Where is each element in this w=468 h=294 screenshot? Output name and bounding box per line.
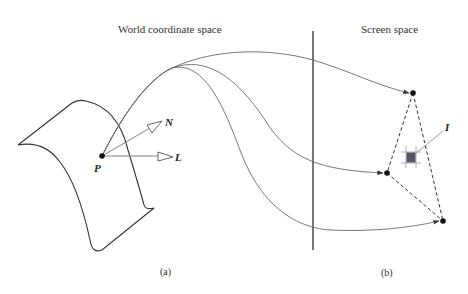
caption-a: (a) — [160, 266, 171, 278]
pixel-square-icon — [407, 153, 416, 163]
vertex-top-dot — [410, 90, 416, 96]
projection-curve-top — [102, 52, 409, 156]
normal-vector-label: N — [164, 116, 174, 128]
pixel-leader-line — [414, 131, 443, 155]
point-p-label: P — [94, 162, 101, 174]
caption-b: (b) — [381, 267, 393, 279]
projection-curves — [102, 52, 439, 231]
world-space-title: World coordinate space — [118, 23, 222, 35]
pixel-i — [401, 131, 443, 168]
surface-patch — [18, 100, 154, 251]
vertex-bottom-dot — [440, 218, 446, 224]
light-arrowhead-icon — [158, 152, 173, 161]
projection-curve-bottom — [102, 67, 439, 230]
point-p-dot — [99, 153, 105, 159]
light-vector-label: L — [174, 151, 182, 163]
light-vector — [102, 152, 173, 161]
normal-arrowhead-icon — [147, 121, 162, 133]
screen-space-title: Screen space — [361, 23, 418, 35]
rendering-diagram: World coordinate space Screen space N L … — [0, 0, 468, 294]
vertex-middle-dot — [384, 170, 390, 176]
pixel-i-label: I — [444, 121, 450, 133]
